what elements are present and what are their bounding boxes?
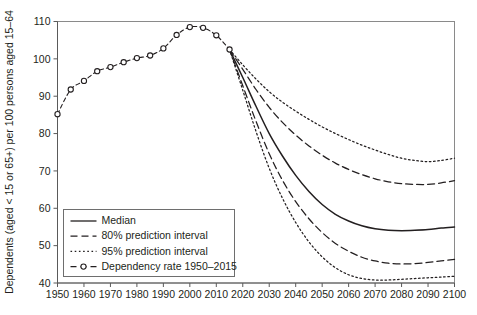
y-tick-label: 110 [34,15,51,27]
x-tick-label: 1950 [46,288,70,300]
x-tick-label: 2080 [390,288,414,300]
x-tick-label: 1990 [152,288,176,300]
chart-legend: Median80% prediction interval95% predict… [64,210,238,277]
y-tick-label: 50 [39,239,51,251]
x-tick-label: 2060 [337,288,361,300]
data-point-marker [95,69,100,74]
x-tick-label: 2100 [443,288,467,300]
data-point-marker [161,46,166,51]
series-line-solid [230,50,455,231]
legend-label: 95% prediction interval [102,245,208,257]
series-dashed-lower [230,50,455,264]
data-point-marker [174,32,179,37]
x-axis-ticks: 1950196019701980199020002010202020302040… [46,283,467,300]
series-dotted-upper [230,50,455,162]
chart-canvas: 1950196019701980199020002010202020302040… [0,0,477,315]
x-tick-label: 1980 [125,288,149,300]
y-tick-label: 100 [33,53,51,65]
data-point-marker [108,64,113,69]
data-point-marker [214,33,219,38]
y-tick-label: 60 [39,202,51,214]
y-axis-title: Dependents (aged < 15 or 65+) per 100 pe… [3,10,15,294]
data-point-marker [55,112,60,117]
y-tick-label: 80 [39,127,51,139]
x-tick-label: 2070 [363,288,387,300]
x-tick-label: 2090 [416,288,440,300]
y-tick-label: 70 [39,165,51,177]
series-dotted-lower [230,50,455,281]
y-tick-label: 90 [39,90,51,102]
series-dashed-upper [230,50,455,185]
data-point-marker [81,78,86,83]
legend-label: Median [102,214,137,226]
x-tick-label: 1970 [99,288,123,300]
legend-label: Dependency rate 1950–2015 [102,260,238,272]
data-point-marker [227,47,232,52]
legend-label: 80% prediction interval [102,229,208,241]
legend-marker-open-circle [81,264,86,269]
x-tick-label: 2040 [284,288,308,300]
data-point-marker [200,25,205,30]
data-point-marker [121,60,126,65]
y-axis-ticks: 405060708090100110 [33,15,58,289]
x-tick-label: 2010 [205,288,229,300]
data-point-marker [187,25,192,30]
x-tick-label: 2030 [258,288,282,300]
y-tick-label: 40 [39,277,51,289]
x-tick-label: 2050 [310,288,334,300]
x-tick-label: 2020 [231,288,255,300]
x-tick-label: 1960 [72,288,96,300]
data-point-marker [134,56,139,61]
data-point-marker [148,53,153,58]
dependency-ratio-chart-figure: 1950196019701980199020002010202020302040… [0,0,477,315]
data-point-marker [68,87,73,92]
x-tick-label: 2000 [178,288,202,300]
series-line-dashed-markers [58,26,230,114]
